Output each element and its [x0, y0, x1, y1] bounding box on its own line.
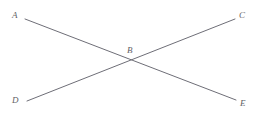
vertex-label-b: B	[127, 46, 133, 55]
vertex-label-e: E	[240, 99, 246, 108]
geometry-canvas	[0, 0, 258, 114]
vertex-label-a: A	[12, 11, 18, 20]
vertex-label-d: D	[12, 96, 19, 105]
vertex-label-c: C	[239, 11, 245, 20]
geometry-figure: A C B D E	[0, 0, 258, 114]
